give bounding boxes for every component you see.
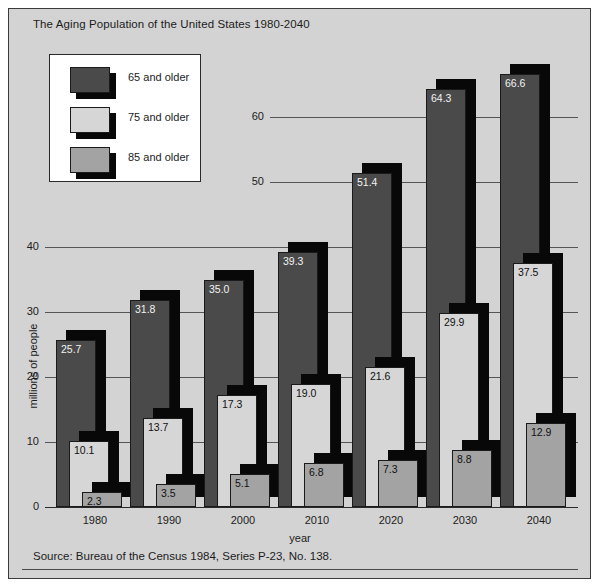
x-axis-line [45,507,578,508]
x-axis-tick-label: 1980 [67,514,123,526]
bar-value-label: 66.6 [505,77,525,89]
source-divider [22,569,578,570]
y-axis-tick-label: 60 [238,110,264,122]
x-axis-tick-label: 2030 [437,514,493,526]
y-axis-label: millions of people [27,311,39,421]
bar-value-label: 6.8 [309,466,324,478]
bar-value-label: 25.7 [61,343,81,355]
bar-value-label: 13.7 [148,421,168,433]
chart-legend: 65 and older75 and older85 and older [49,54,201,182]
bar-value-label: 51.4 [357,176,377,188]
legend-swatch [70,107,110,133]
bar-value-label: 31.8 [135,303,155,315]
x-axis-tick-label: 1990 [141,514,197,526]
y-axis-tick-label: 50 [238,175,264,187]
source-note: Source: Bureau of the Census 1984, Serie… [33,550,332,562]
bar-value-label: 12.9 [531,426,551,438]
legend-label: 65 and older [128,71,189,83]
bar-value-label: 19.0 [296,387,316,399]
bar-value-label: 29.9 [444,316,464,328]
x-axis-tick-label: 2020 [363,514,419,526]
bar-value-label: 8.8 [457,453,472,465]
bar-value-label: 5.1 [235,477,250,489]
x-axis-tick-label: 2000 [215,514,271,526]
bar-value-label: 37.5 [518,266,538,278]
legend-swatch [70,147,110,173]
bar-value-label: 35.0 [209,283,229,295]
bar-value-label: 17.3 [222,398,242,410]
y-axis-tick-label: 10 [13,435,39,447]
x-axis-tick-label: 2040 [511,514,567,526]
y-axis-tick-label: 0 [13,500,39,512]
legend-item: 75 and older [50,103,202,141]
legend-item: 65 and older [50,63,202,101]
bar-value-label: 10.1 [74,444,94,456]
bar-value-label: 39.3 [283,255,303,267]
y-axis-tick-label: 40 [13,240,39,252]
x-axis-tick-label: 2010 [289,514,345,526]
bar-value-label: 3.5 [161,487,176,499]
legend-item: 85 and older [50,143,202,181]
chart-figure: The Aging Population of the United State… [0,0,600,588]
legend-label: 75 and older [128,111,189,123]
x-axis-label: year [0,532,600,544]
bar-value-label: 21.6 [370,370,390,382]
legend-swatch [70,67,110,93]
bar-value-label: 2.3 [87,495,102,507]
legend-label: 85 and older [128,151,189,163]
bar-value-label: 7.3 [383,463,398,475]
bar-value-label: 64.3 [431,92,451,104]
